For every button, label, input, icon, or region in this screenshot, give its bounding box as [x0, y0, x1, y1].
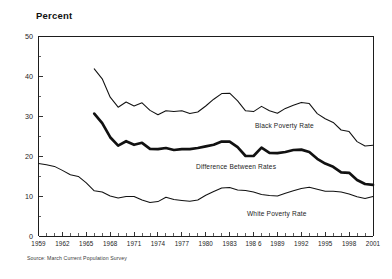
- x-tick-label: 1974: [151, 240, 166, 247]
- x-tick-label: 1968: [103, 240, 118, 247]
- x-tick-label: 1992: [294, 240, 309, 247]
- y-tick-label: 10: [25, 192, 33, 201]
- series-line-black-poverty-rate: [94, 69, 373, 146]
- x-tick-label: 198 6: [245, 240, 262, 247]
- x-tick-label: 1959: [31, 240, 46, 247]
- series-label-black-poverty-rate: Black Poverty Rate: [255, 122, 314, 130]
- series-line-difference-between-rates: [94, 114, 373, 185]
- series-label-difference-between-rates: Difference Between Rates: [196, 163, 277, 170]
- series-label-white-poverty-rate: White Poverty Rate: [247, 210, 307, 218]
- source-note: Source: March Current Population Survey: [27, 255, 127, 261]
- x-tick-label: 1980: [199, 240, 214, 247]
- chart-axes: 0102030405019591962196519681971197419771…: [25, 32, 381, 247]
- x-tick-label: 1998: [342, 240, 357, 247]
- y-tick-label: 40: [25, 72, 33, 81]
- x-tick-label: 1983: [222, 240, 237, 247]
- x-tick-label: 1977: [175, 240, 190, 247]
- poverty-rate-chart-figure: Percent 01020304050195919621965196819711…: [0, 0, 392, 279]
- y-tick-label: 30: [25, 112, 33, 121]
- x-tick-label: 1962: [55, 240, 70, 247]
- chart-series-annotations: Black Poverty RateDifference Between Rat…: [196, 122, 314, 218]
- x-tick-label: 1989: [270, 240, 285, 247]
- y-tick-label: 20: [25, 152, 33, 161]
- y-tick-label: 50: [25, 32, 33, 41]
- chart-plot-area: 0102030405019591962196519681971197419771…: [0, 0, 392, 279]
- x-tick-label: 1971: [127, 240, 142, 247]
- chart-series: [39, 69, 374, 203]
- x-tick-label: 2001: [366, 240, 381, 247]
- x-tick-label: 1995: [318, 240, 333, 247]
- x-tick-label: 1965: [79, 240, 94, 247]
